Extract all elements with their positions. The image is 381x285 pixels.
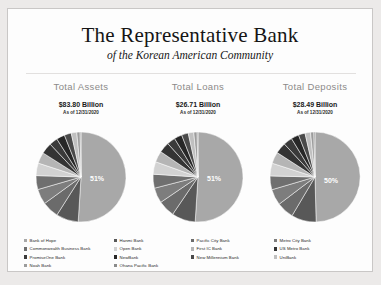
pie-slices: [153, 132, 243, 222]
legend-item[interactable]: Noah Bank: [24, 262, 116, 270]
legend-column-3: Pacific City BankFirst IC BankNew Millen…: [191, 237, 275, 262]
legend-item-label: US Metro Bank: [280, 246, 310, 251]
column-asof: As of 12/31/2020: [139, 110, 257, 116]
legend-item-label: UniBank: [280, 255, 297, 260]
pie-chart-svg: 51%: [25, 121, 137, 233]
legend-item-label: Noah Bank: [30, 263, 52, 268]
column-heading: Total Loans: [139, 81, 257, 93]
column-value: $28.49 Billion: [256, 100, 373, 109]
pie-major-label: 51%: [90, 175, 105, 182]
legend-item-label: NewBank: [120, 255, 139, 260]
pie-chart-svg: 50%: [259, 121, 371, 233]
legend-swatch-icon: [24, 255, 27, 258]
legend-swatch-icon: [191, 247, 194, 250]
legend-item[interactable]: Bank of Hope: [24, 237, 116, 245]
column-header-total-deposits: Total Deposits $28.49 Billion As of 12/3…: [256, 81, 373, 116]
legend-item[interactable]: New Millennium Bank: [191, 253, 275, 261]
legend-item[interactable]: Hanmi Bank: [114, 237, 192, 245]
legend-item-label: New Millennium Bank: [197, 255, 239, 260]
legend-swatch-icon: [274, 239, 277, 242]
column-asof: As of 12/31/2020: [256, 110, 373, 116]
column-heading: Total Assets: [22, 81, 140, 93]
legend-item[interactable]: First IC Bank: [191, 245, 275, 253]
legend-swatch-icon: [114, 264, 117, 267]
column-header-total-loans: Total Loans $26.71 Billion As of 12/31/2…: [139, 81, 257, 116]
legend-column-1: Bank of HopeCommonwealth Business BankPr…: [24, 237, 116, 270]
legend-swatch-icon: [191, 255, 194, 258]
pie-slices: [270, 132, 360, 222]
legend-item-label: Pacific City Bank: [197, 238, 230, 243]
slide-title-block: The Representative Bank of the Korean Am…: [8, 23, 372, 62]
legend-swatch-icon: [24, 264, 27, 267]
legend-item-label: Bank of Hope: [30, 238, 57, 243]
legend-item[interactable]: Commonwealth Business Bank: [24, 245, 116, 253]
legend-swatch-icon: [24, 247, 27, 250]
pie-major-label: 50%: [324, 177, 339, 184]
legend-swatch-icon: [114, 247, 117, 250]
legend-swatch-icon: [274, 247, 277, 250]
legend-item-label: Ohana Pacific Bank: [120, 263, 159, 268]
page-title: The Representative Bank: [8, 23, 372, 47]
presentation-slide: The Representative Bank of the Korean Am…: [7, 8, 373, 272]
page-subtitle: of the Korean American Community: [8, 48, 372, 62]
column-asof: As of 12/31/2020: [22, 110, 140, 116]
pie-slices: [36, 132, 126, 222]
legend-column-4: Metro City BankUS Metro BankUniBank: [274, 237, 360, 262]
legend-column-2: Hanmi BankOpen BankNewBankOhana Pacific …: [114, 237, 192, 270]
slide-page: The Representative Bank of the Korean Am…: [0, 0, 381, 285]
column-heading: Total Deposits: [256, 81, 373, 93]
pie-major-label: 51%: [207, 175, 222, 182]
pie-chart-svg: 51%: [142, 121, 254, 233]
legend-item-label: First IC Bank: [197, 246, 222, 251]
title-divider: [26, 73, 356, 74]
legend-item[interactable]: US Metro Bank: [274, 245, 360, 253]
column-value: $83.80 Billion: [22, 100, 140, 109]
pie-chart-total-loans: 51%: [139, 121, 257, 233]
legend-item-label: Open Bank: [120, 246, 142, 251]
legend-item-label: Commonwealth Business Bank: [30, 246, 91, 251]
chart-legend: Bank of HopeCommonwealth Business BankPr…: [24, 237, 360, 269]
pie-chart-total-deposits: 50%: [256, 121, 373, 233]
legend-swatch-icon: [24, 239, 27, 242]
legend-item[interactable]: NewBank: [114, 253, 192, 261]
legend-swatch-icon: [191, 239, 194, 242]
legend-swatch-icon: [114, 255, 117, 258]
legend-item-label: Metro City Bank: [280, 238, 311, 243]
legend-item[interactable]: Open Bank: [114, 245, 192, 253]
legend-item[interactable]: PromiseOne Bank: [24, 253, 116, 261]
legend-item-label: PromiseOne Bank: [30, 255, 66, 260]
pie-chart-total-assets: 51%: [22, 121, 140, 233]
legend-swatch-icon: [114, 239, 117, 242]
legend-item[interactable]: UniBank: [274, 253, 360, 261]
column-header-total-assets: Total Assets $83.80 Billion As of 12/31/…: [22, 81, 140, 116]
legend-item[interactable]: Metro City Bank: [274, 237, 360, 245]
legend-item[interactable]: Ohana Pacific Bank: [114, 262, 192, 270]
legend-item-label: Hanmi Bank: [120, 238, 144, 243]
legend-item[interactable]: Pacific City Bank: [191, 237, 275, 245]
column-value: $26.71 Billion: [139, 100, 257, 109]
legend-swatch-icon: [274, 255, 277, 258]
